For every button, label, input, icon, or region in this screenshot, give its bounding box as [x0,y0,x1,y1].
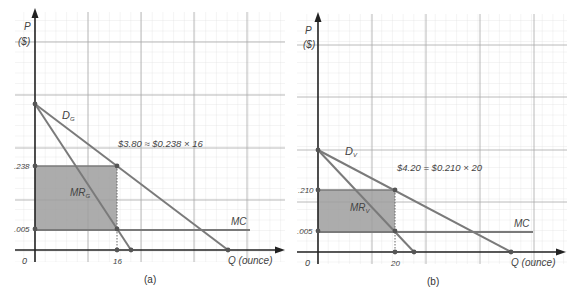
mc-label: MC [514,218,530,229]
y-tick-mc: .005 [14,225,30,234]
y-axis-unit: ($) [18,36,30,47]
panel-caption-a: (a) [144,274,156,285]
mc-label: MC [231,216,247,227]
figure: P ($) DG $3.80 ≈ $0.238 × 16 MRG MC .238… [0,0,578,300]
y-tick-price: .238 [14,162,30,171]
chart-panel-a: P ($) DG $3.80 ≈ $0.238 × 16 MRG MC .238… [14,8,285,285]
chart-panel-b: P ($) DV $4.20 = $0.210 × 20 MRV MC .210… [297,12,567,287]
x-tick-q: 16 [113,257,122,266]
y-axis-label: P [305,25,312,36]
x-axis-label: Q (ounce) [228,255,272,266]
origin-label: 0 [22,256,27,266]
origin-label: 0 [305,258,310,268]
revenue-equation: $4.20 = $0.210 × 20 [396,162,483,173]
profit-area [35,166,117,230]
revenue-equation: $3.80 ≈ $0.238 × 16 [117,138,203,149]
x-axis-label: Q (ounce) [511,257,555,268]
y-tick-mc: .005 [297,227,313,236]
x-tick-q: 20 [390,259,400,268]
y-tick-price: .210 [298,186,314,195]
panel-caption-b: (b) [427,276,439,287]
y-axis-unit: ($) [303,39,315,50]
y-axis-label: P [24,21,31,32]
